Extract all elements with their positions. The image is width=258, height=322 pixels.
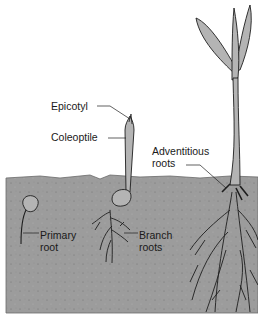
label-branch-line-1: Branch: [139, 229, 172, 241]
label-epicotyl: Epicotyl: [51, 100, 88, 112]
seed: [23, 196, 38, 212]
stage-2-seed: [112, 189, 131, 206]
label-adventitious-line-2: roots: [152, 157, 209, 169]
label-primary-root: Primary root: [40, 229, 76, 253]
epicotyl-leader: [97, 106, 130, 119]
leaf-sheath: [232, 8, 239, 80]
label-adventitious-roots: Adventitious roots: [152, 145, 209, 169]
label-branch-roots: Branch roots: [139, 229, 172, 253]
stem: [230, 78, 240, 185]
seedling-diagram: [0, 0, 258, 322]
label-adventitious-line-1: Adventitious: [152, 145, 209, 157]
label-primary-line-2: root: [40, 241, 76, 253]
label-primary-line-1: Primary: [40, 229, 76, 241]
label-branch-line-2: roots: [139, 241, 172, 253]
label-coleoptile: Coleoptile: [51, 131, 98, 143]
